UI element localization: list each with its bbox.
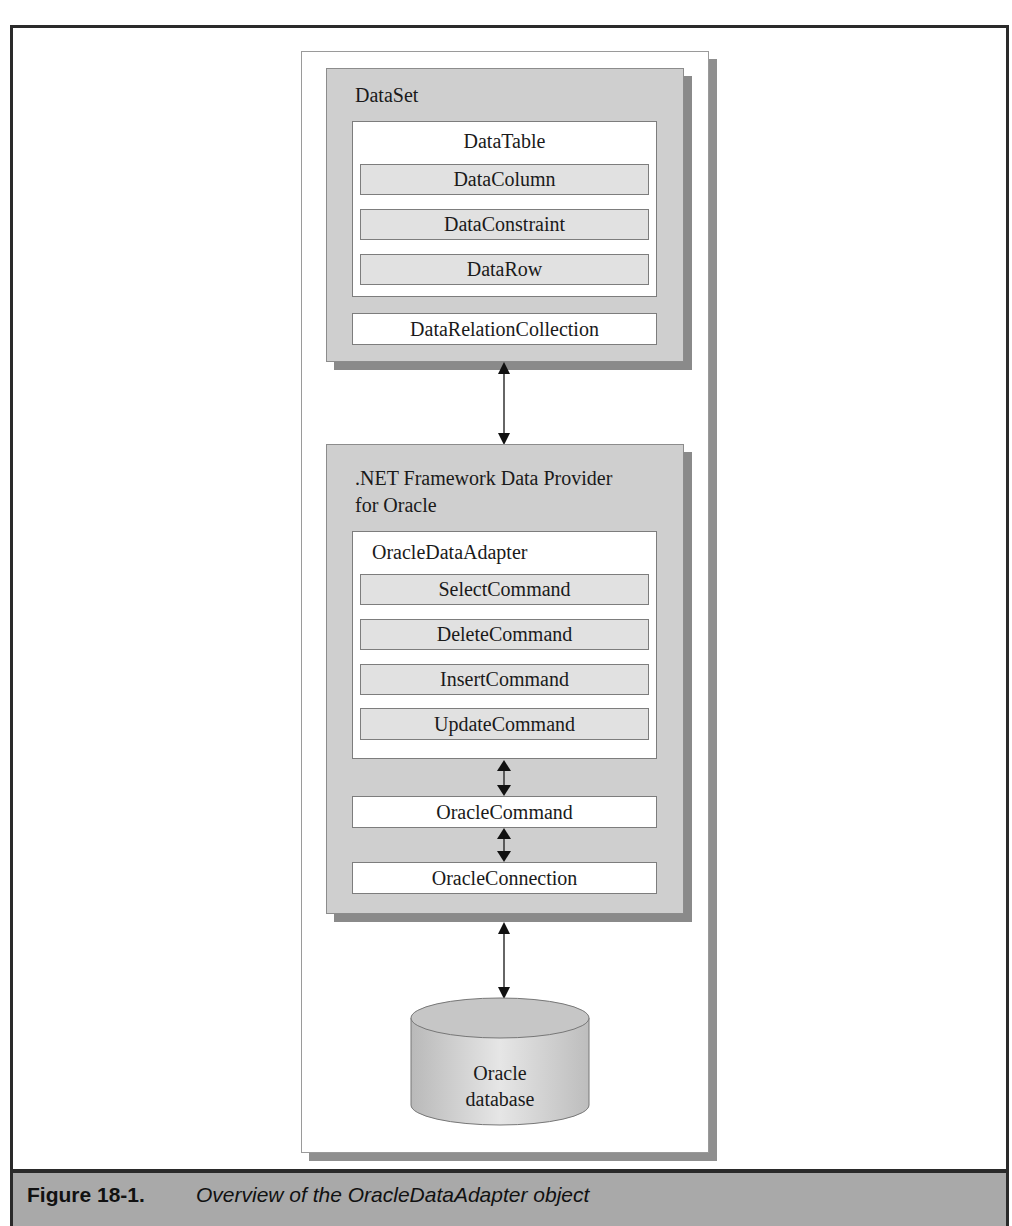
datacolumn-item: DataColumn bbox=[360, 164, 649, 195]
database-label-line2: database bbox=[411, 1088, 589, 1111]
updatecommand-item: UpdateCommand bbox=[360, 708, 649, 740]
bidirectional-arrow-icon bbox=[494, 922, 514, 1000]
bidirectional-arrow-icon bbox=[494, 362, 514, 446]
selectcommand-item: SelectCommand bbox=[360, 574, 649, 605]
provider-title-line1: .NET Framework Data Provider bbox=[355, 467, 612, 490]
deletecommand-item: DeleteCommand bbox=[360, 619, 649, 650]
figure-caption-bar: Figure 18-1. Overview of the OracleDataA… bbox=[10, 1169, 1009, 1226]
datarow-item: DataRow bbox=[360, 254, 649, 285]
datatable-title: DataTable bbox=[352, 130, 657, 153]
bidirectional-arrow-icon bbox=[492, 760, 516, 796]
figure-number: Figure 18-1. bbox=[27, 1183, 145, 1207]
dataconstraint-item: DataConstraint bbox=[360, 209, 649, 240]
dataset-title: DataSet bbox=[355, 84, 418, 107]
bidirectional-arrow-icon bbox=[492, 828, 516, 862]
datarelationcollection-box: DataRelationCollection bbox=[352, 313, 657, 345]
oraclecommand-box: OracleCommand bbox=[352, 796, 657, 828]
insertcommand-item: InsertCommand bbox=[360, 664, 649, 695]
figure-caption: Overview of the OracleDataAdapter object bbox=[196, 1183, 589, 1207]
oracledataadapter-title: OracleDataAdapter bbox=[372, 541, 527, 564]
database-label-line1: Oracle bbox=[411, 1062, 589, 1085]
oracleconnection-box: OracleConnection bbox=[352, 862, 657, 894]
provider-title-line2: for Oracle bbox=[355, 494, 437, 517]
